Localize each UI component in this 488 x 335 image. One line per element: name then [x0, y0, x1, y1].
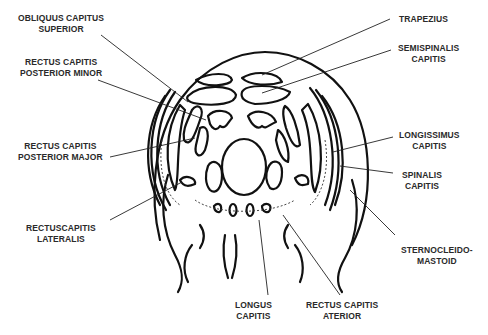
label-rectuscapitis-lateralis: RECTUSCAPITIS LATERALIS: [26, 223, 96, 245]
label-obliquus-capitis-superior: OBLIQUUS CAPITUS SUPERIOR: [18, 13, 104, 35]
spinal-canal: [222, 139, 266, 195]
label-longissimus-capitis: LONGISSIMUS CAPITIS: [399, 130, 460, 152]
left-lobe: [163, 175, 182, 292]
label-spinalis-capitis: SPINALIS CAPITIS: [402, 170, 442, 192]
rcp-minor-right: [248, 112, 276, 128]
label-rectus-capitis-posterior-minor: RECTUS CAPITIS POSTERIOR MINOR: [20, 57, 102, 79]
semispinalis-right: [242, 86, 290, 104]
label-sternocleidomastoid: STERNOCLEIDO- MASTOID: [401, 245, 473, 267]
label-trapezius: TRAPEZIUS: [399, 14, 448, 25]
label-semispinalis-capitis: SEMISPINALIS CAPITIS: [398, 43, 459, 65]
right-lobe: [338, 180, 357, 292]
label-rectus-capitis-anterior: RECTUS CAPITIS ATERIOR: [306, 300, 378, 322]
rcp-minor-left: [208, 111, 232, 129]
semispinalis-left: [187, 87, 236, 105]
label-longus-capitis: LONGUS CAPITIS: [235, 300, 272, 322]
label-rectus-capitis-posterior-major: RECTUS CAPITIS POSTERIOR MAJOR: [18, 141, 103, 163]
